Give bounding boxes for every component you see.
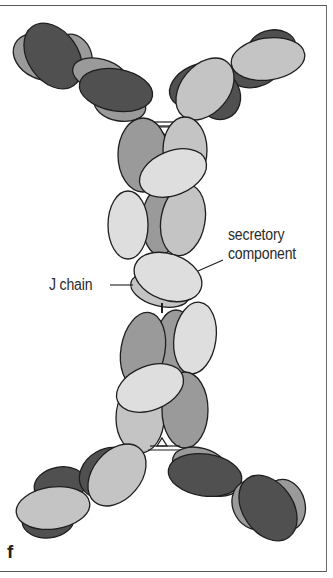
secretory-component-domain <box>108 191 148 259</box>
secretory-component-label: secretory component <box>228 225 296 263</box>
secretory-label-line1: secretory <box>228 225 296 244</box>
top-left-fab-arm <box>6 12 157 125</box>
j-chain-label: J chain <box>49 275 92 294</box>
bottom-right-fab-arm <box>165 441 311 551</box>
secretory-component-leader-line <box>198 260 223 271</box>
top-right-fab-arm <box>162 26 307 131</box>
secretory-iga-figure: secretory component J chain f <box>0 0 333 578</box>
panel-letter: f <box>7 541 13 563</box>
lower-fc-region <box>109 299 220 453</box>
bottom-left-fab-arm <box>13 433 157 540</box>
upper-fc-region <box>108 117 214 259</box>
secretory-label-line2: component <box>228 244 296 263</box>
